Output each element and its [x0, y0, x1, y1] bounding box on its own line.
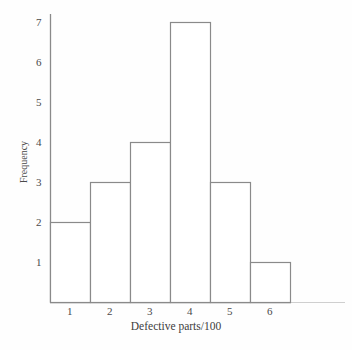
y-axis-title: Frequency [18, 141, 29, 183]
x-tick-label-2: 2 [107, 306, 113, 317]
x-tick-label-6: 6 [267, 306, 273, 317]
y-tick-label-5: 5 [36, 97, 42, 108]
bar-1 [51, 223, 91, 303]
bar-5 [211, 183, 251, 303]
x-axis-title: Defective parts/100 [0, 321, 352, 333]
y-tick-label-6: 6 [36, 57, 42, 68]
bar-3 [131, 143, 171, 303]
y-tick-label-2: 2 [36, 217, 42, 228]
bar-2 [91, 183, 131, 303]
bar-6 [251, 263, 291, 303]
bar-4 [171, 23, 211, 303]
y-tick-label-1: 1 [36, 257, 42, 268]
histogram-figure: Frequency 7 6 5 4 3 2 1 1 2 3 4 5 6 Defe… [0, 0, 352, 350]
y-tick-label-3: 3 [36, 177, 42, 188]
x-tick-label-4: 4 [187, 306, 193, 317]
y-tick-label-7: 7 [36, 17, 42, 28]
x-tick-label-3: 3 [147, 306, 153, 317]
x-tick-label-1: 1 [67, 306, 73, 317]
y-tick-label-4: 4 [36, 137, 42, 148]
histogram-plot-area: Frequency [0, 0, 352, 350]
x-tick-label-5: 5 [227, 306, 233, 317]
